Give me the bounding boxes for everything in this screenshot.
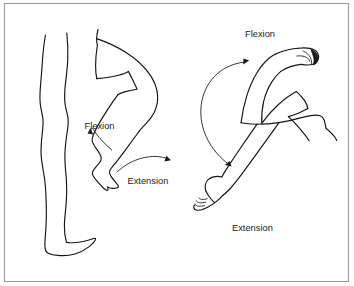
arm-flexion-label: Flexion: [245, 29, 275, 39]
open-hand-thumb-web: [206, 191, 215, 203]
leg-flexion-label: Flexion: [85, 121, 115, 131]
leg-flexion-arrow-curve: [91, 128, 112, 150]
shoulder-contour: [241, 119, 297, 125]
leg-illustration: Flexion Extension: [40, 30, 171, 256]
standing-leg-front-contour: [64, 33, 68, 243]
hand-finger-4: [199, 198, 207, 200]
leg-extension-arrow-head: [164, 156, 171, 162]
thigh-contour: [326, 128, 337, 140]
hand-finger-1: [194, 205, 204, 210]
flexed-biceps-contour: [262, 71, 281, 123]
fist-finger-fold: [297, 56, 310, 62]
upper-thigh-back: [288, 117, 309, 141]
bent-leg-thigh-top: [97, 30, 98, 46]
flexed-forearm-underside: [281, 64, 301, 71]
arm-illustration: Flexion Extension: [194, 29, 337, 233]
leg-extension-label: Extension: [128, 176, 169, 186]
arm-range-arc-curve: [201, 62, 245, 164]
flexed-forearm-top: [276, 48, 299, 54]
torso-side-line: [288, 109, 307, 117]
chest-diagonal-line: [296, 92, 307, 109]
hand-finger-3: [196, 201, 205, 203]
arm-extension-label: Extension: [232, 223, 273, 233]
bent-leg-knee-crease: [97, 71, 129, 78]
extended-arm-lower-contour: [222, 124, 257, 177]
leg-extension-arrow-curve: [117, 156, 168, 172]
bent-leg-inner-thigh: [96, 45, 98, 79]
wrist-contour: [205, 176, 222, 190]
standing-leg-back-contour: [40, 35, 46, 252]
diagram-figure: Flexion Extension: [0, 0, 354, 286]
standing-leg-foot: [46, 238, 95, 255]
diagram-canvas: Flexion Extension: [0, 0, 354, 286]
bent-leg-outer-thigh: [97, 39, 158, 131]
hand-finger-2: [195, 204, 204, 206]
hip-contour: [297, 115, 326, 128]
bent-leg-calf-back: [92, 94, 118, 190]
diagram-border: [5, 4, 349, 282]
fist-knuckle-line: [303, 51, 311, 64]
arm-flexion-arrow-head: [243, 58, 249, 64]
